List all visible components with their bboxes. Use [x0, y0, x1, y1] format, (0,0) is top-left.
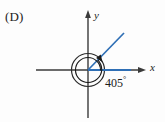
terminal-side-ray: [88, 33, 124, 70]
y-axis-label: y: [94, 10, 99, 21]
y-axis-arrow-icon: [85, 10, 91, 18]
x-axis-arrow-icon: [138, 67, 146, 73]
x-axis-label: x: [150, 62, 155, 73]
panel-label: (D): [5, 10, 24, 23]
angle-measure-value: 405: [105, 76, 123, 90]
degree-symbol: °: [123, 75, 126, 84]
angle-figure-panel-d: (D) y x 405°: [0, 0, 165, 122]
y-axis: [85, 10, 91, 118]
coordinate-plane-graphic: [0, 0, 165, 122]
angle-measure-label: 405°: [105, 76, 126, 89]
